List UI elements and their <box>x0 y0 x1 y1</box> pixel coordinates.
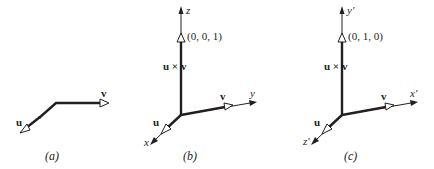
vector-u-cross-v-arrowhead-icon <box>338 33 346 42</box>
vector-v-label: v <box>381 90 387 102</box>
y-axis-label: y <box>249 87 255 99</box>
cross-product-figure: u v (a) z y x u × v (0, 0, 1) v u (b) <box>0 0 434 169</box>
vector-v-arrowhead-icon <box>100 99 109 107</box>
panel-c: y′ x′ z′ u × v (0, 1, 0) v u (c) <box>302 4 418 163</box>
point-label: (0, 0, 1) <box>187 30 222 43</box>
caption-b: (b) <box>183 149 197 163</box>
vector-v-label: v <box>220 90 226 102</box>
panel-a: u v (a) <box>16 87 109 163</box>
vector-u-shaft <box>328 115 342 128</box>
z-prime-axis-label: z′ <box>302 135 310 147</box>
vector-u-cross-v-label: u × v <box>324 60 348 72</box>
point-label: (0, 1, 0) <box>348 30 383 43</box>
z-axis-label: z <box>185 4 191 16</box>
x-prime-axis-label: x′ <box>409 87 418 99</box>
z-axis-arrowhead-icon <box>179 6 184 14</box>
vector-v-shaft <box>39 103 101 118</box>
vector-u-cross-v-arrowhead-icon <box>177 33 185 42</box>
y-prime-axis-arrowhead-icon <box>340 6 345 14</box>
vector-u-label: u <box>314 116 320 128</box>
vector-u-shaft <box>167 115 181 128</box>
caption-c: (c) <box>344 149 357 163</box>
vector-u-cross-v-label: u × v <box>163 60 187 72</box>
vector-u-label: u <box>16 116 22 128</box>
x-prime-axis-arrowhead-icon <box>410 100 418 106</box>
vector-v-shaft <box>181 107 225 115</box>
vector-v-shaft <box>342 107 386 115</box>
y-axis-arrowhead-icon <box>249 100 257 106</box>
x-axis-label: x <box>143 136 149 148</box>
y-prime-axis-label: y′ <box>346 4 355 16</box>
vector-v-label: v <box>101 87 107 99</box>
panel-b: z y x u × v (0, 0, 1) v u (b) <box>143 4 257 163</box>
vector-u-label: u <box>153 116 159 128</box>
caption-a: (a) <box>45 149 59 163</box>
